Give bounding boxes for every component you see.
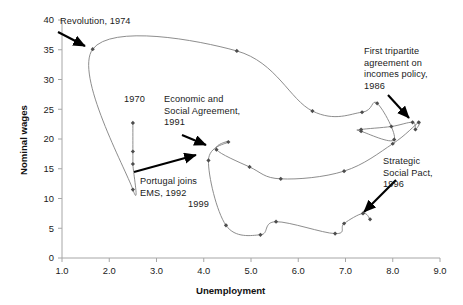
data-point-marker [258, 233, 262, 237]
x-tick-label: 2.0 [103, 265, 116, 276]
y-tick-label: 15 [44, 163, 54, 174]
data-point-marker [410, 120, 414, 124]
data-point-marker [342, 169, 346, 173]
arrow-first-tripartite [388, 95, 409, 118]
x-axis-title: Unemployment [196, 285, 265, 296]
arrow-economic-social-agreement [182, 135, 206, 145]
data-point-marker [274, 220, 278, 224]
annotation-tripartite-line4: 1986 [364, 81, 428, 93]
label-1970: 1970 [124, 94, 145, 106]
annotation-economic-line2: Social Agreement, [164, 106, 240, 118]
data-point-marker [279, 177, 283, 181]
annotation-ems-line1: Portugal joins [140, 176, 197, 188]
annotation-portugal-ems: Portugal joins EMS, 1992 [140, 176, 197, 199]
annotation-pact-line3: 1996 [383, 179, 433, 191]
annotation-tripartite-line3: incomes policy, [364, 69, 428, 81]
label-1999: 1999 [188, 199, 209, 211]
y-tick-label: 0 [49, 252, 54, 263]
x-tick-label: 1.0 [55, 265, 68, 276]
x-tick-label: 9.0 [433, 265, 446, 276]
data-point-marker [247, 165, 251, 169]
data-point-marker [360, 110, 364, 114]
y-axis-ticks: 0510152025303540 [44, 14, 62, 263]
x-tick-label: 7.0 [339, 265, 352, 276]
annotation-first-tripartite: First tripartite agreement on incomes po… [364, 46, 428, 92]
data-point-marker [310, 109, 314, 113]
arrow-portugal-ems [134, 155, 196, 172]
annotation-pact-line1: Strategic [383, 156, 433, 168]
data-point-marker [131, 162, 135, 166]
x-tick-label: 6.0 [292, 265, 305, 276]
y-tick-label: 40 [44, 14, 54, 25]
y-tick-label: 10 [44, 193, 54, 204]
annotation-tripartite-line1: First tripartite [364, 46, 428, 58]
y-tick-label: 5 [49, 223, 54, 234]
y-tick-label: 25 [44, 104, 54, 115]
data-point-marker [131, 149, 135, 153]
annotation-revolution: Revolution, 1974 [60, 16, 131, 28]
x-axis-ticks: 1.02.03.04.05.06.07.08.09.0 [55, 258, 446, 276]
annotation-economic-social-agreement: Economic and Social Agreement, 1991 [164, 94, 240, 129]
data-point-marker [131, 121, 135, 125]
x-tick-label: 8.0 [386, 265, 399, 276]
data-point-marker [131, 187, 135, 191]
annotation-pact-line2: Social Pact, [383, 168, 433, 180]
annotation-tripartite-line2: agreement on [364, 58, 428, 70]
y-axis-title: Nominal wages [18, 105, 29, 175]
x-tick-label: 4.0 [197, 265, 210, 276]
annotation-economic-line1: Economic and [164, 94, 240, 106]
data-point-marker [389, 124, 393, 128]
x-tick-label: 5.0 [244, 265, 257, 276]
data-point-marker [226, 140, 230, 144]
y-tick-label: 30 [44, 74, 54, 85]
chart-container: 0510152025303540 1.02.03.04.05.06.07.08.… [0, 0, 463, 305]
y-tick-label: 20 [44, 133, 54, 144]
data-point-marker [206, 158, 210, 162]
annotation-ems-line2: EMS, 1992 [140, 188, 197, 200]
annotation-strategic-social-pact: Strategic Social Pact, 1996 [383, 156, 433, 191]
y-tick-label: 35 [44, 44, 54, 55]
data-point-marker [235, 49, 239, 53]
annotation-economic-line3: 1991 [164, 117, 240, 129]
x-tick-label: 3.0 [150, 265, 163, 276]
data-point-marker [333, 232, 337, 236]
